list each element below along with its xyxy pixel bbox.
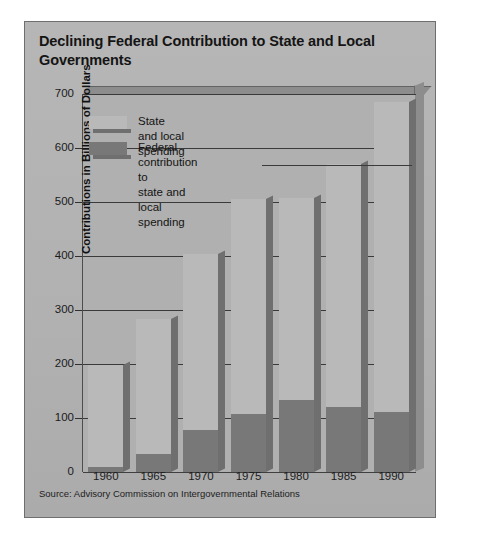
chart-source: Source: Advisory Commission on Intergove… [39,488,300,499]
legend-swatch-federal-shadow [93,155,131,159]
bar-1980 [279,198,314,472]
legend-swatch-federal [89,142,127,155]
y-tick-label: 300 [40,303,74,315]
bar-side-face-1970 [218,251,225,472]
chart-title: Declining Federal Contribution to State … [39,32,409,70]
bar-segment-federal-1990 [374,412,409,472]
chart-card: Declining Federal Contribution to State … [24,21,436,518]
bar-1985 [326,164,361,472]
bar-segment-federal-1980 [279,400,314,472]
legend-label-federal: Federal contribution to state and local … [138,140,197,230]
bar-segment-federal-1975 [231,414,266,472]
x-tick-label: 1985 [331,470,357,482]
y-tick-label: 100 [40,411,74,423]
y-tick-label: 700 [40,87,74,99]
bar-1960 [88,365,123,472]
chart-page: Declining Federal Contribution to State … [0,0,488,548]
bar-segment-federal-1985 [326,407,361,472]
bar-side-face-1980 [314,195,321,472]
y-tick-label: 200 [40,357,74,369]
y-tick-mark [75,364,82,365]
y-tick-mark [75,256,82,257]
x-tick-label: 1970 [188,470,214,482]
bar-1975 [231,199,266,472]
y-tick-label: 0 [40,465,74,477]
y-tick-label: 600 [40,141,74,153]
bar-1970 [183,254,218,472]
x-tick-label: 1960 [93,470,119,482]
legend-swatch-state [89,116,127,129]
x-tick-label: 1975 [236,470,262,482]
plot-area: 7006005004003002001000 Contributions in … [82,86,424,472]
x-tick-label: 1990 [378,470,404,482]
legend-leader-line [262,165,412,166]
y-tick-label: 400 [40,249,74,261]
bar-1965 [136,319,171,472]
legend-swatch-state-shadow [93,129,131,133]
bar-series [82,94,415,472]
x-tick-label: 1965 [141,470,167,482]
bar-1990 [374,102,409,472]
bar-segment-state-1960 [88,365,123,472]
x-tick-label: 1980 [283,470,309,482]
bar-side-face-1975 [266,195,273,472]
y-tick-label: 500 [40,195,74,207]
bar-segment-state-1965 [136,319,171,472]
bar-side-face-1985 [361,161,368,472]
bar-segment-federal-1970 [183,430,218,472]
bar-side-face-1965 [171,316,178,472]
y-tick-mark [75,310,82,311]
y-tick-mark [75,418,82,419]
bar-side-face-1990 [409,99,416,472]
bar-side-face-1960 [123,362,130,472]
